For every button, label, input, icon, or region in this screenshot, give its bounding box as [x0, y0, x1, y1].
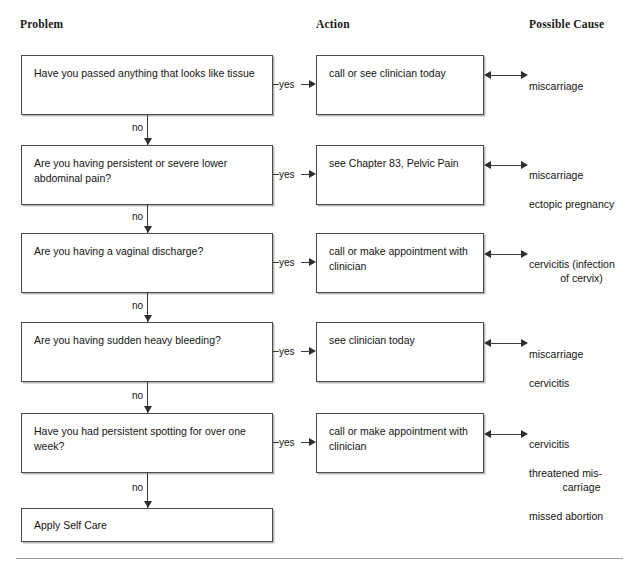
cause-line-1 [491, 75, 521, 76]
action-box-5[interactable]: call or make appointment with clinician [316, 413, 484, 473]
arrow-right-icon [521, 339, 528, 347]
cause-2-line-2: ectopic pregnancy [529, 198, 614, 210]
problem-box-2[interactable]: Are you having persistent or severe lowe… [21, 145, 273, 205]
action-box-3-text: call or make appointment with clinician [329, 244, 475, 274]
cause-connector-3 [484, 249, 528, 259]
yes-label-5: yes [279, 436, 295, 449]
arrow-right-icon [521, 430, 528, 438]
cause-5-line-4: missed abortion [529, 510, 603, 522]
cause-3-line-1: cervicitis (infection [529, 258, 615, 270]
action-box-5-text: call or make appointment with clinician [329, 424, 475, 454]
no-label-3: no [132, 300, 143, 312]
arrow-right-icon [309, 170, 316, 178]
arrow-left-icon [484, 250, 491, 258]
arrow-right-icon [521, 161, 528, 169]
arrow-right-icon [309, 258, 316, 266]
cause-connector-2 [484, 160, 528, 170]
cause-line-3 [491, 254, 521, 255]
cause-2-line-1: miscarriage [529, 169, 583, 181]
action-box-2-text: see Chapter 83, Pelvic Pain [329, 156, 475, 171]
problem-box-5-text: Have you had persistent spotting for ove… [34, 424, 264, 454]
arrow-left-icon [484, 430, 491, 438]
no-label-4: no [132, 390, 143, 402]
cause-text-2: miscarriage ectopic pregnancy [529, 153, 634, 211]
no-connector-2: no [141, 205, 181, 233]
yes-label-3: yes [279, 256, 295, 269]
arrow-right-icon [309, 438, 316, 446]
arrow-right-icon [309, 80, 316, 88]
arrow-left-icon [484, 339, 491, 347]
no-connector-5: no [141, 473, 181, 508]
cause-text-4: miscarriage cervicitis [529, 332, 634, 390]
cause-connector-5 [484, 429, 528, 439]
cause-text-3: cervicitis (infection of cervix) [529, 242, 634, 300]
cause-connector-1 [484, 70, 528, 80]
terminal-box-apply-self-care[interactable]: Apply Self Care [21, 508, 273, 542]
no-connector-4: no [141, 382, 181, 413]
column-header-possible-cause: Possible Cause [529, 18, 604, 30]
action-box-4-text: see clinician today [329, 333, 475, 348]
cause-4-line-1: miscarriage [529, 348, 583, 360]
action-box-3[interactable]: call or make appointment with clinician [316, 233, 484, 293]
column-header-problem: Problem [20, 18, 63, 30]
cause-1-line-1: miscarriage [529, 80, 583, 92]
cause-4-line-2: cervicitis [529, 377, 569, 389]
cause-5-line-2: threatened mis- [529, 467, 602, 479]
no-label-1: no [132, 122, 143, 134]
action-box-2[interactable]: see Chapter 83, Pelvic Pain [316, 145, 484, 205]
arrow-right-icon [521, 71, 528, 79]
cause-connector-4 [484, 338, 528, 348]
column-header-action: Action [316, 18, 350, 30]
yes-label-2: yes [279, 168, 295, 181]
arrow-right-icon [521, 250, 528, 258]
problem-box-2-text: Are you having persistent or severe lowe… [34, 156, 264, 186]
problem-box-3-text: Are you having a vaginal discharge? [34, 244, 264, 259]
arrow-down-icon [144, 138, 152, 145]
cause-5-line-1: cervicitis [529, 438, 569, 450]
yes-connector-3: yes [273, 256, 316, 270]
yes-connector-5: yes [273, 436, 316, 450]
arrow-down-icon [144, 315, 152, 322]
cause-line-2 [491, 165, 521, 166]
arrow-down-icon [144, 226, 152, 233]
arrow-right-icon [309, 347, 316, 355]
arrow-down-icon [144, 406, 152, 413]
yes-connector-4: yes [273, 345, 316, 359]
action-box-1-text: call or see clinician today [329, 66, 475, 81]
action-box-4[interactable]: see clinician today [316, 322, 484, 382]
arrow-left-icon [484, 161, 491, 169]
problem-box-4[interactable]: Are you having sudden heavy bleeding? [21, 322, 273, 382]
problem-box-4-text: Are you having sudden heavy bleeding? [34, 333, 264, 348]
yes-connector-1: yes [273, 78, 316, 92]
action-box-1[interactable]: call or see clinician today [316, 55, 484, 115]
cause-5-line-3: carriage [529, 480, 634, 495]
bottom-divider [16, 558, 623, 559]
cause-text-5: cervicitis threatened mis- carriage miss… [529, 422, 634, 524]
terminal-box-text: Apply Self Care [34, 518, 264, 533]
problem-box-1-text: Have you passed anything that looks like… [34, 66, 264, 81]
yes-label-4: yes [279, 345, 295, 358]
arrow-down-icon [144, 501, 152, 508]
arrow-left-icon [484, 71, 491, 79]
flowchart-page: Problem Action Possible Cause Have you p… [0, 0, 637, 566]
no-label-2: no [132, 211, 143, 223]
cause-text-1: miscarriage [529, 64, 634, 93]
problem-box-1[interactable]: Have you passed anything that looks like… [21, 55, 273, 115]
no-connector-1: no [141, 115, 181, 145]
problem-box-5[interactable]: Have you had persistent spotting for ove… [21, 413, 273, 473]
cause-line-5 [491, 434, 521, 435]
no-label-5: no [132, 482, 143, 494]
yes-connector-2: yes [273, 168, 316, 182]
cause-3-line-2: of cervix) [529, 271, 634, 286]
no-connector-3: no [141, 293, 181, 322]
yes-label-1: yes [279, 78, 295, 91]
problem-box-3[interactable]: Are you having a vaginal discharge? [21, 233, 273, 293]
cause-line-4 [491, 343, 521, 344]
